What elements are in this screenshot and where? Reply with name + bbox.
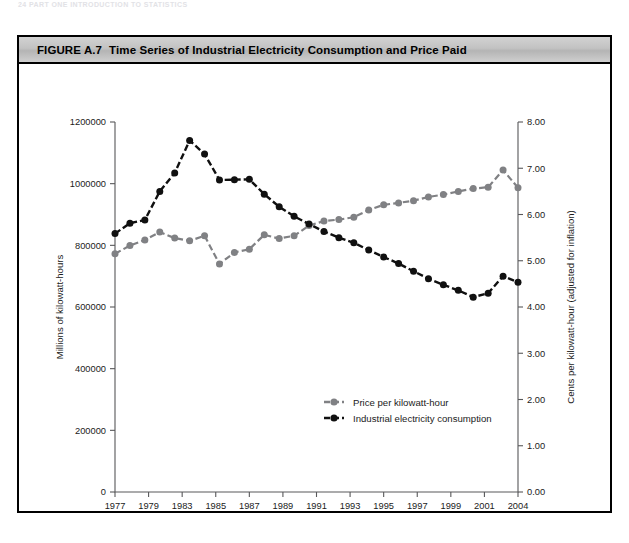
data-point — [440, 281, 447, 288]
data-point — [395, 199, 402, 206]
svg-text:1985: 1985 — [205, 501, 226, 511]
y-axis-title: Millions of kilowatt-hours — [54, 255, 65, 360]
data-point — [201, 151, 208, 158]
series-line — [115, 141, 518, 298]
data-point — [276, 235, 283, 242]
chart-plot-area: 020000040000060000080000010000001200000 … — [19, 64, 610, 511]
svg-text:800000: 800000 — [75, 241, 106, 251]
data-point — [216, 260, 223, 267]
figure-title-text: Time Series of Industrial Electricity Co… — [109, 44, 467, 56]
data-point — [455, 188, 462, 195]
figure-title-bar: FIGURE A.7Time Series of Industrial Elec… — [19, 37, 610, 64]
data-point — [112, 250, 119, 257]
data-point — [276, 203, 283, 210]
data-point — [126, 242, 133, 249]
data-point — [291, 213, 298, 220]
svg-text:5.00: 5.00 — [527, 256, 545, 266]
svg-text:1993: 1993 — [340, 501, 361, 511]
legend-marker — [330, 398, 337, 405]
svg-text:1999: 1999 — [440, 501, 461, 511]
data-point — [246, 176, 253, 183]
svg-text:1977: 1977 — [105, 501, 126, 511]
data-point — [500, 167, 507, 174]
data-point — [485, 290, 492, 297]
data-point — [261, 191, 268, 198]
data-point — [261, 231, 268, 238]
y2-axis-title: Cents per kilowatt-hour (adjusted for in… — [565, 210, 576, 404]
svg-text:1.00: 1.00 — [527, 441, 545, 451]
data-point — [320, 217, 327, 224]
figure-caption: FIGURE A.7Time Series of Industrial Elec… — [37, 44, 467, 56]
svg-text:1987: 1987 — [239, 501, 260, 511]
x-axis-ticks: 1977197919831985198719891991199319951997… — [105, 492, 529, 511]
data-point — [350, 214, 357, 221]
data-point — [410, 197, 417, 204]
data-point — [350, 239, 357, 246]
data-point — [365, 246, 372, 253]
svg-text:2004: 2004 — [508, 501, 529, 511]
data-point — [320, 228, 327, 235]
data-point — [335, 216, 342, 223]
data-point — [201, 232, 208, 239]
data-point — [380, 201, 387, 208]
page-running-head: 24 PART ONE INTRODUCTION TO STATISTICS — [18, 1, 187, 8]
svg-text:1991: 1991 — [306, 501, 327, 511]
data-point — [485, 184, 492, 191]
data-point — [440, 191, 447, 198]
chart-axis-titles: YearsMillions of kilowatt-hoursCents per… — [54, 210, 576, 511]
svg-text:400000: 400000 — [75, 364, 106, 374]
data-point — [171, 235, 178, 242]
svg-text:1997: 1997 — [407, 501, 428, 511]
data-point — [291, 232, 298, 239]
data-point — [246, 246, 253, 253]
data-point — [126, 220, 133, 227]
legend-label: Industrial electricity consumption — [353, 413, 492, 424]
chart-axes — [115, 122, 518, 492]
svg-text:8.00: 8.00 — [527, 117, 545, 127]
data-point — [380, 254, 387, 261]
svg-text:1995: 1995 — [373, 501, 394, 511]
svg-text:1000000: 1000000 — [70, 179, 106, 189]
time-series-chart: 020000040000060000080000010000001200000 … — [19, 64, 610, 511]
right-axis-ticks: 0.001.002.003.004.005.006.007.008.00 — [518, 117, 545, 497]
data-point — [410, 268, 417, 275]
svg-text:1979: 1979 — [138, 501, 159, 511]
svg-text:200000: 200000 — [75, 426, 106, 436]
svg-text:1983: 1983 — [172, 501, 193, 511]
data-point — [186, 237, 193, 244]
svg-text:6.00: 6.00 — [527, 210, 545, 220]
svg-text:1989: 1989 — [273, 501, 294, 511]
svg-text:600000: 600000 — [75, 302, 106, 312]
svg-text:0: 0 — [101, 487, 106, 497]
figure-number: FIGURE A.7 — [37, 44, 102, 56]
legend-marker — [330, 414, 337, 421]
series-line — [115, 170, 518, 264]
data-point — [216, 176, 223, 183]
data-point — [455, 287, 462, 294]
data-point — [425, 193, 432, 200]
data-point — [395, 260, 402, 267]
data-point — [515, 279, 522, 286]
data-point — [156, 229, 163, 236]
data-point — [171, 169, 178, 176]
chart-series-layer — [112, 137, 522, 301]
data-point — [500, 273, 507, 280]
data-point — [470, 185, 477, 192]
svg-text:7.00: 7.00 — [527, 164, 545, 174]
data-point — [515, 184, 522, 191]
data-point — [470, 294, 477, 301]
data-point — [112, 230, 119, 237]
svg-text:0.00: 0.00 — [527, 487, 545, 497]
data-point — [365, 206, 372, 213]
chart-legend: Price per kilowatt-hourIndustrial electr… — [324, 397, 492, 424]
svg-text:2001: 2001 — [474, 501, 495, 511]
data-point — [156, 188, 163, 195]
left-axis-ticks: 020000040000060000080000010000001200000 — [70, 117, 115, 497]
svg-text:4.00: 4.00 — [527, 302, 545, 312]
data-point — [141, 236, 148, 243]
data-point — [231, 176, 238, 183]
svg-text:1200000: 1200000 — [70, 117, 106, 127]
data-point — [141, 217, 148, 224]
data-point — [186, 137, 193, 144]
svg-text:3.00: 3.00 — [527, 349, 545, 359]
